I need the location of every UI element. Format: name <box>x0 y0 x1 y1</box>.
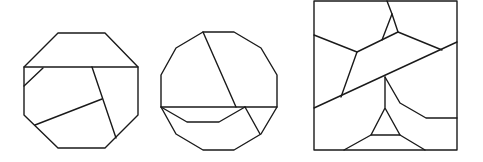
dodecagon-dissection-cut-line <box>203 32 236 107</box>
square-dissection-cut-line <box>344 135 371 150</box>
dodecagon-dissection <box>161 32 277 150</box>
square-dissection-cut-line <box>314 32 398 52</box>
octagon-dissection-cut-line <box>24 68 43 86</box>
square-dissection-cut-line <box>385 77 457 118</box>
square-dissection-cut-line <box>387 1 442 50</box>
octagon-dissection-cut-line <box>92 67 116 138</box>
dodecagon-dissection-cut-line <box>245 107 260 134</box>
octagon-dissection <box>24 33 138 148</box>
square-dissection-cut-line <box>400 135 425 150</box>
dodecagon-dissection-cut-line <box>161 107 245 122</box>
square-dissection-cut-line <box>341 52 357 97</box>
square-dissection <box>314 1 457 150</box>
octagon-dissection-cut-line <box>35 99 102 125</box>
octagon-dissection-outline <box>24 33 138 148</box>
square-dissection-cut-line <box>371 77 400 135</box>
diagram-canvas <box>0 0 483 162</box>
